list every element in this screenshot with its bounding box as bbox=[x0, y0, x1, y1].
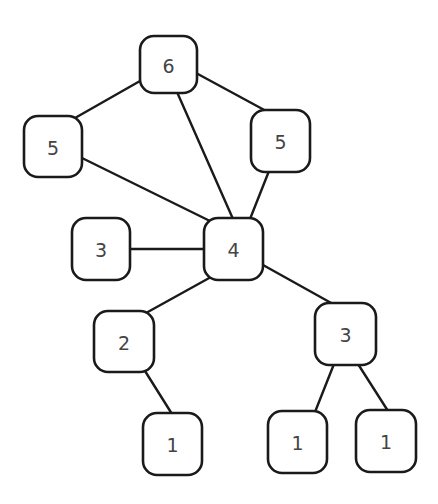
edge-n5b-n4 bbox=[250, 171, 269, 219]
node-n3b: 3 bbox=[315, 303, 376, 365]
nodes-layer: 6553423111 bbox=[24, 36, 416, 475]
node-label: 6 bbox=[162, 55, 174, 77]
node-label: 5 bbox=[47, 137, 59, 159]
node-n5a: 5 bbox=[24, 116, 82, 177]
edge-n6-n5b bbox=[196, 73, 268, 112]
node-label: 1 bbox=[291, 432, 303, 454]
edge-n6-n5a bbox=[75, 81, 140, 118]
edge-n2-n1a bbox=[145, 371, 172, 414]
edge-n4-n2 bbox=[146, 277, 211, 313]
edge-n3b-n1c bbox=[358, 364, 388, 411]
node-n5b: 5 bbox=[251, 110, 310, 172]
node-label: 1 bbox=[166, 434, 178, 456]
node-n6: 6 bbox=[140, 36, 197, 93]
node-label: 3 bbox=[95, 239, 107, 261]
node-label: 5 bbox=[274, 131, 286, 153]
node-n4: 4 bbox=[204, 218, 263, 280]
node-label: 3 bbox=[339, 324, 351, 346]
node-n3a: 3 bbox=[72, 218, 130, 280]
node-n2: 2 bbox=[94, 311, 154, 372]
node-n1a: 1 bbox=[143, 413, 202, 475]
node-n1b: 1 bbox=[268, 411, 327, 473]
node-label: 4 bbox=[227, 239, 239, 261]
node-label: 2 bbox=[118, 332, 130, 354]
edge-n4-n3b bbox=[263, 265, 333, 304]
edge-n5a-n4 bbox=[82, 158, 212, 222]
edge-n6-n4 bbox=[177, 92, 233, 219]
node-n1c: 1 bbox=[356, 410, 416, 472]
edge-n3b-n1b bbox=[315, 364, 334, 412]
graph-diagram: 6553423111 bbox=[0, 0, 438, 504]
node-label: 1 bbox=[380, 431, 392, 453]
